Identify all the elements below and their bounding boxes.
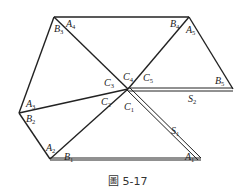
edge-top-left <box>19 17 54 113</box>
label-c2: C2 <box>101 96 111 108</box>
spoke-top-right <box>128 17 189 89</box>
label-c3: C3 <box>104 77 114 89</box>
label-b2: B2 <box>26 113 35 125</box>
figure-5-17: A4B3B4A5C3C4C5B5A3B2C2C1S2S1A1A2B1 圖 5-1… <box>0 0 249 190</box>
label-b4: B4 <box>170 18 180 30</box>
label-s2: S2 <box>188 93 196 105</box>
double-lines <box>50 88 233 160</box>
figure-caption: 圖 5-17 <box>108 175 147 188</box>
label-b1: B1 <box>64 151 73 163</box>
label-c5: C5 <box>143 72 153 84</box>
label-c1: C1 <box>124 101 134 113</box>
label-a2: A2 <box>45 142 55 154</box>
spoke-bottom-left <box>50 89 128 159</box>
label-a1: A1 <box>184 151 194 163</box>
label-c4: C4 <box>123 71 134 83</box>
label-a3: A3 <box>25 98 35 110</box>
label-b5: B5 <box>215 75 224 87</box>
label-a4: A4 <box>65 18 76 30</box>
label-s1: S1 <box>171 125 179 137</box>
edge-top-right <box>189 17 233 89</box>
